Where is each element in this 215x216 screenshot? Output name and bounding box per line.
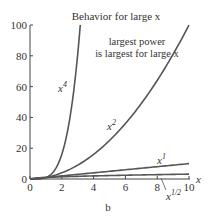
x-tick-label: 0: [27, 181, 33, 193]
y-tick-label: 0: [22, 173, 28, 185]
y-tick-label: 20: [16, 142, 28, 154]
chart-annotation: largest power is largest for large x: [95, 36, 179, 59]
y-tick-label: 40: [16, 111, 28, 123]
x-tick-label: 8: [154, 181, 160, 193]
x-axis-label: x: [195, 173, 201, 185]
x-tick-label: 2: [59, 181, 65, 193]
x-tick-label: 10: [184, 181, 196, 193]
y-tick-label: 80: [16, 50, 28, 62]
leader-line: [161, 178, 166, 190]
figure-caption: b: [105, 201, 111, 213]
svg-text:largest power: largest power: [109, 36, 166, 47]
curve-label: x1: [156, 152, 166, 166]
curve-label: x4: [57, 80, 67, 94]
curve-labels: x4x2x1x1/2: [57, 80, 181, 202]
x-tick-label: 4: [91, 181, 97, 193]
curve-label: x1/2: [165, 188, 181, 202]
x-tick-label: 6: [123, 181, 129, 193]
y-tick-label: 100: [11, 19, 28, 31]
svg-text:is largest for large x: is largest for large x: [95, 48, 179, 59]
tick-labels: 0246810020406080100: [11, 19, 196, 193]
y-tick-label: 60: [16, 81, 28, 93]
chart-title: Behavior for large x: [72, 10, 161, 22]
chart: Behavior for large x largest power is la…: [0, 0, 215, 216]
curve-label: x2: [106, 118, 116, 132]
curve-x-4: [30, 25, 80, 179]
